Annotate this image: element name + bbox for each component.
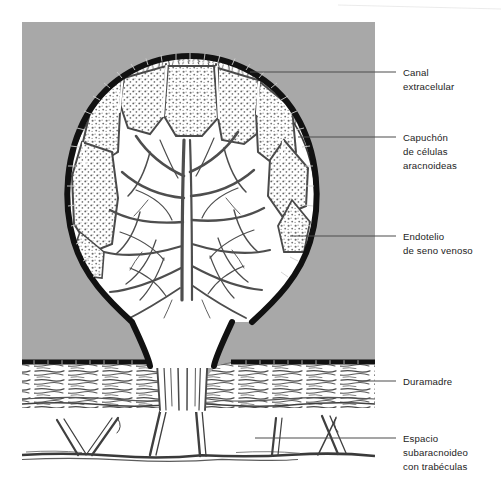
illustration-panel [22,22,375,470]
anatomical-figure: Canal extracelular Capuchón de células a… [0,0,501,501]
label-duramadre: Duramadre [403,376,452,387]
label-capuchon-celulas-aracnoideas: Capuchón de células aracnoideas [403,132,457,171]
